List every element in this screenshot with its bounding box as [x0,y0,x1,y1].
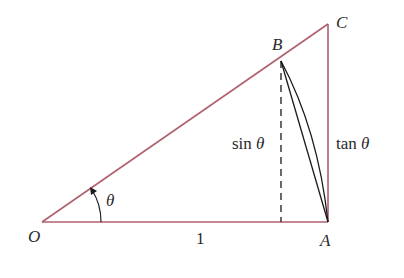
angle-label-theta: θ [106,192,114,209]
angle-arc [92,190,101,222]
chord-BA [281,61,328,222]
tan-theta-label: tan θ [336,135,369,152]
point-label-A: A [320,232,330,249]
point-label-O: O [28,228,40,245]
tan-var-text: θ [361,134,369,153]
point-label-B: B [272,36,282,53]
point-label-C: C [336,14,347,31]
sin-fn-text: sin [232,134,252,153]
tan-fn-text: tan [336,134,357,153]
sin-theta-label: sin θ [232,135,264,152]
unit-circle-trig-diagram: O A B C θ 1 sin θ tan θ [0,0,404,278]
sin-var-text: θ [256,134,264,153]
segment-OC [42,24,328,222]
base-length-label: 1 [196,230,205,247]
angle-arrowhead-icon [90,187,97,195]
